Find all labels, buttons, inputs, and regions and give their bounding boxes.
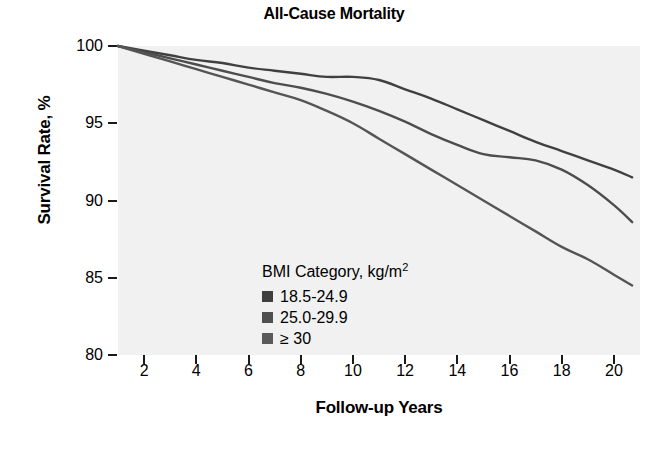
x-tick-mark xyxy=(195,355,197,364)
x-tick-label: 12 xyxy=(385,363,425,379)
x-tick-mark xyxy=(456,355,458,364)
x-tick-mark xyxy=(143,355,145,364)
y-tick-mark xyxy=(108,45,117,47)
x-tick-mark xyxy=(352,355,354,364)
y-tick-mark xyxy=(108,354,117,356)
y-tick-label: 90 xyxy=(57,193,103,209)
y-axis-title: Survival Rate, % xyxy=(35,10,55,310)
y-tick-mark xyxy=(108,122,117,124)
legend-title-superscript: 2 xyxy=(402,261,408,273)
chart-figure: All-Cause Mortality Survival Rate, % 100… xyxy=(0,0,668,455)
x-axis-title: Follow-up Years xyxy=(118,398,640,418)
y-tick-mark xyxy=(108,277,117,279)
x-tick-label: 16 xyxy=(490,363,530,379)
legend-item-label: 18.5-24.9 xyxy=(280,288,348,306)
legend: BMI Category, kg/m2 18.5-24.925.0-29.9≥ … xyxy=(262,262,408,349)
x-tick-mark xyxy=(248,355,250,364)
x-tick-mark xyxy=(404,355,406,364)
legend-entries: 18.5-24.925.0-29.9≥ 30 xyxy=(262,286,408,349)
x-tick-label: 18 xyxy=(542,363,582,379)
x-tick-mark xyxy=(300,355,302,364)
x-tick-label: 4 xyxy=(176,363,216,379)
legend-title: BMI Category, kg/m2 xyxy=(262,262,408,282)
y-tick-label: 95 xyxy=(57,115,103,131)
legend-swatch-icon xyxy=(262,333,273,344)
legend-swatch-icon xyxy=(262,312,273,323)
legend-item[interactable]: ≥ 30 xyxy=(262,328,408,349)
series-line xyxy=(118,46,632,177)
plot-area: BMI Category, kg/m2 18.5-24.925.0-29.9≥ … xyxy=(118,46,640,355)
legend-item[interactable]: 25.0-29.9 xyxy=(262,307,408,328)
x-tick-label: 10 xyxy=(333,363,373,379)
legend-swatch-icon xyxy=(262,291,273,302)
page-title: All-Cause Mortality xyxy=(0,5,668,23)
legend-item-label: 25.0-29.9 xyxy=(280,309,348,327)
legend-item[interactable]: 18.5-24.9 xyxy=(262,286,408,307)
y-tick-mark xyxy=(108,200,117,202)
x-tick-label: 6 xyxy=(229,363,269,379)
y-tick-label: 85 xyxy=(57,270,103,286)
x-tick-label: 14 xyxy=(437,363,477,379)
x-tick-label: 2 xyxy=(124,363,164,379)
y-tick-label: 100 xyxy=(57,38,103,54)
y-tick-label: 80 xyxy=(57,347,103,363)
x-tick-label: 20 xyxy=(594,363,634,379)
x-tick-mark xyxy=(509,355,511,364)
series-line xyxy=(118,46,632,222)
x-tick-label: 8 xyxy=(281,363,321,379)
x-tick-mark xyxy=(561,355,563,364)
x-tick-mark xyxy=(613,355,615,364)
legend-item-label: ≥ 30 xyxy=(280,330,311,348)
